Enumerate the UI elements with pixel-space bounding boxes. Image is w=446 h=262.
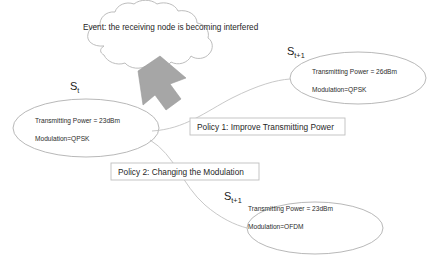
state-label-next-modulation-sub: t+1 [231,196,241,205]
state-label-current: St [70,80,79,94]
state-current-line-power: Transmitting Power = 23dBm [35,117,120,125]
state-label-next-power: St+1 [287,45,305,59]
cloud-event-text: Event: the receiving node is becoming in… [83,22,205,34]
state-next-power-line-power: Transmitting Power = 26dBm [312,68,397,76]
state-label-next-power-sub: t+1 [294,51,304,60]
state-next-modulation-line-power: Transmitting Power = 23dBm [248,205,333,213]
policy-1-label: Policy 1: Improve Transmitting Power [197,122,334,132]
state-label-current-sub: t [77,86,79,95]
diagram-canvas: Event: the receiving node is becoming in… [0,0,446,262]
state-ellipse-next-power [290,52,426,104]
state-next-modulation-line-modulation: Modulation=OFDM [248,223,304,231]
state-current-line-modulation: Modulation=QPSK [35,135,89,143]
state-next-power-line-modulation: Modulation=QPSK [312,86,366,94]
policy-2-label: Policy 2: Changing the Modulation [118,167,244,177]
state-ellipse-current [13,99,159,157]
cloud-shape [88,0,213,68]
state-label-next-modulation: St+1 [224,190,242,204]
connector-to-next-modulation [150,140,247,228]
